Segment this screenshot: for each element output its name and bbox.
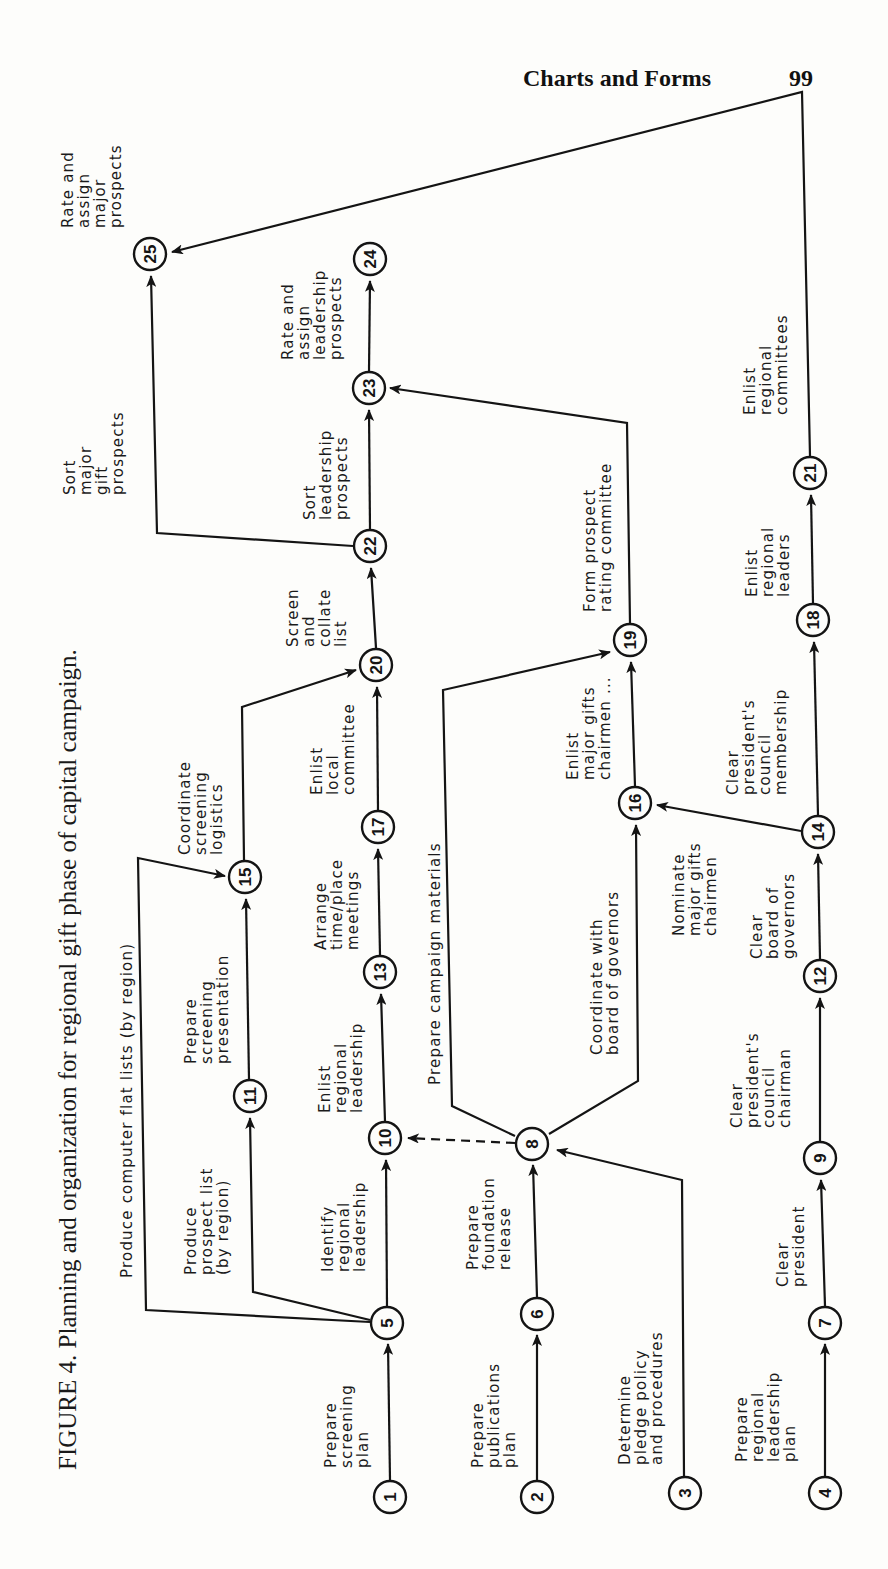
edge-18-21 [811, 495, 813, 603]
edge-10-13 [381, 994, 385, 1121]
node-22: 22 [354, 530, 386, 562]
flowchart-canvas: Charts and Forms 99 FIGURE 4. Planning a… [0, 0, 888, 1569]
svg-text:25: 25 [141, 245, 160, 264]
svg-text:14: 14 [809, 822, 828, 841]
figure-caption: FIGURE 4. Planning and organization for … [54, 649, 81, 1470]
svg-text:plan: plan [501, 1431, 519, 1468]
label-19-23: Form prospectrating committee [581, 463, 615, 612]
svg-text:chairman: chairman [776, 1048, 794, 1128]
edge-14-18 [814, 642, 818, 815]
label-16-19: Enlistmajor giftschairmen ... [564, 676, 614, 780]
node-10: 10 [369, 1122, 401, 1154]
edge-8-10-dashed [408, 1138, 515, 1143]
edge-20-22 [371, 568, 376, 648]
svg-text:prospects: prospects [107, 144, 125, 228]
svg-text:committees: committees [773, 314, 791, 415]
label-5-15: Produce computer flat lists (by region) [118, 943, 136, 1278]
svg-text:16: 16 [626, 794, 645, 813]
label-14-16: Nominatemajor giftschairmen [670, 842, 720, 936]
label-10-13: Enlistregionalleadership [316, 1022, 366, 1113]
node-23: 23 [353, 372, 385, 404]
node-20: 20 [360, 649, 392, 681]
label-8-19: Prepare campaign materials [426, 842, 444, 1085]
svg-text:leadership: leadership [348, 1022, 366, 1113]
svg-text:plan: plan [781, 1425, 799, 1462]
label-6-8: Preparefoundationrelease [464, 1177, 514, 1270]
svg-text:11: 11 [241, 1087, 260, 1105]
svg-text:board of governors: board of governors [604, 891, 622, 1055]
node-19: 19 [614, 624, 646, 656]
label-7-9: Clearpresident [774, 1205, 808, 1287]
label-20-22: Screenandcollatelist [284, 588, 350, 647]
label-3-8: Determinepledge policyand procedures [616, 1331, 666, 1465]
edge-23-24 [369, 281, 370, 371]
svg-text:chairmen: chairmen [702, 856, 720, 936]
svg-text:22: 22 [361, 537, 380, 556]
svg-text:19: 19 [621, 631, 640, 650]
svg-text:13: 13 [371, 963, 390, 982]
label-11-15: Preparescreeningpresentation [182, 955, 232, 1064]
svg-text:21: 21 [801, 464, 820, 483]
svg-text:leaders: leaders [775, 533, 793, 597]
svg-text:10: 10 [376, 1129, 395, 1148]
edge-16-19 [631, 662, 635, 786]
svg-text:24: 24 [361, 249, 380, 268]
label-17-20: Enlistlocalcommittee [308, 703, 358, 795]
node-6: 6 [521, 1298, 553, 1330]
node-3: 3 [669, 1477, 701, 1509]
svg-text:17: 17 [369, 818, 388, 837]
node-11: 11 [234, 1080, 266, 1112]
node-7: 7 [809, 1307, 841, 1339]
label-14-18: Clearpresident'scouncilmembership [724, 689, 790, 795]
edge-1-5 [388, 1344, 390, 1480]
svg-text:plan: plan [354, 1431, 372, 1468]
svg-text:20: 20 [367, 656, 386, 675]
nodes: 1 2 3 4 5 6 7 8 9 10 11 12 13 14 15 16 1… [134, 238, 841, 1513]
svg-text:presentation: presentation [214, 955, 232, 1064]
svg-text:8: 8 [523, 1139, 542, 1148]
edge-12-14 [818, 854, 820, 959]
node-14: 14 [802, 816, 834, 848]
svg-text:chairmen ...: chairmen ... [596, 676, 614, 780]
svg-text:4: 4 [816, 1488, 835, 1498]
edge-22-23 [369, 410, 370, 529]
svg-text:membership: membership [772, 689, 790, 795]
label-13-17: Arrangetime/placemeetings [312, 859, 362, 950]
node-15: 15 [229, 861, 261, 893]
svg-text:meetings: meetings [344, 870, 362, 950]
edge-17-20 [377, 687, 378, 810]
page-number: 99 [789, 65, 813, 91]
svg-text:governors: governors [780, 873, 798, 959]
node-4: 4 [809, 1477, 841, 1509]
svg-text:12: 12 [811, 967, 830, 986]
node-5: 5 [371, 1307, 403, 1339]
svg-text:logistics: logistics [208, 783, 226, 855]
node-16: 16 [619, 787, 651, 819]
svg-text:18: 18 [804, 611, 823, 630]
edge-13-17 [378, 849, 380, 955]
label-21-25: Enlistregionalcommittees [741, 314, 791, 415]
edge-labels: Preparescreeningplan Preparepublications… [59, 144, 808, 1468]
node-12: 12 [804, 960, 836, 992]
label-25: Rate andassignmajorprospects [59, 144, 125, 228]
label-5-11: Produceprospect list(by region) [182, 1167, 232, 1275]
svg-text:and procedures: and procedures [648, 1331, 666, 1465]
svg-text:rating committee: rating committee [597, 463, 615, 612]
node-13: 13 [364, 956, 396, 988]
svg-text:leadership: leadership [351, 1181, 369, 1272]
edge-5-10 [386, 1160, 387, 1306]
node-1: 1 [374, 1481, 406, 1513]
svg-text:president: president [790, 1205, 808, 1287]
node-17: 17 [362, 811, 394, 843]
node-24: 24 [354, 243, 386, 275]
svg-text:3: 3 [676, 1488, 695, 1497]
label-18-21: Enlistregionalleaders [743, 527, 793, 597]
node-2: 2 [521, 1481, 553, 1513]
edge-7-9 [821, 1180, 825, 1306]
page-header-title: Charts and Forms [523, 65, 711, 91]
edge-21-25 [172, 92, 810, 456]
svg-text:23: 23 [360, 379, 379, 398]
svg-text:5: 5 [378, 1318, 397, 1327]
svg-text:15: 15 [236, 868, 255, 887]
svg-text:6: 6 [528, 1309, 547, 1318]
